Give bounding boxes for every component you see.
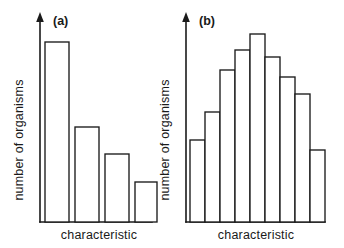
bar [205,112,220,222]
panel-a-bars [45,42,157,222]
panel-b: (b) number of organisms characteristic [158,12,325,242]
bar [310,150,325,222]
panel-b-y-axis-arrow-icon [182,12,190,22]
bar [220,70,235,222]
panel-b-y-axis [182,12,190,222]
panel-b-tag: (b) [199,14,215,28]
bar [265,57,280,222]
bar [105,154,129,222]
figure-container: (a) number of organisms characteristic [0,0,344,248]
bar [135,182,157,222]
bar [75,127,99,222]
panel-a-y-axis [36,12,44,222]
panel-b-bars [190,34,325,222]
panel-a-tag: (a) [53,14,68,28]
panel-a-y-axis-label: number of organisms [12,79,26,200]
bar [250,34,265,222]
panel-b-y-axis-label: number of organisms [158,79,172,200]
bar [280,77,295,222]
bar [235,50,250,222]
figure-canvas: (a) number of organisms characteristic [0,0,344,248]
panel-a-x-axis-label: characteristic [61,228,137,242]
bar [45,42,69,222]
panel-a-y-axis-arrow-icon [36,12,44,22]
panel-b-x-axis-label: characteristic [218,228,294,242]
bar [190,140,205,222]
panel-a: (a) number of organisms characteristic [12,12,157,242]
bar [295,94,310,222]
